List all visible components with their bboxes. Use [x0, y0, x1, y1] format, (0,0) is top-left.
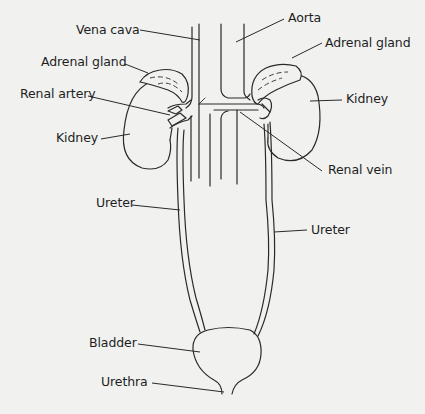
- urinary-system-diagram: Vena cava Aorta Adrenal gland Adrenal gl…: [0, 0, 425, 414]
- label-aorta: Aorta: [288, 12, 321, 25]
- label-renal-vein: Renal vein: [328, 164, 392, 177]
- label-adrenal-gland-right: Adrenal gland: [325, 37, 410, 50]
- label-kidney-right: Kidney: [346, 93, 388, 106]
- label-adrenal-gland-left: Adrenal gland: [41, 56, 126, 69]
- right-adrenal-gland: [252, 64, 302, 104]
- aorta: [199, 24, 264, 186]
- label-urethra: Urethra: [101, 376, 148, 389]
- left-renal-hilum: [168, 100, 192, 128]
- right-ureter: [254, 122, 275, 336]
- label-renal-artery: Renal artery: [20, 88, 96, 101]
- label-kidney-left: Kidney: [56, 132, 98, 145]
- label-ureter-right: Ureter: [311, 224, 350, 237]
- label-ureter-left: Ureter: [96, 197, 135, 210]
- label-bladder: Bladder: [89, 337, 137, 350]
- left-kidney: [123, 82, 172, 169]
- bladder: [193, 328, 261, 395]
- label-vena-cava: Vena cava: [76, 24, 140, 37]
- left-adrenal-gland: [140, 70, 188, 103]
